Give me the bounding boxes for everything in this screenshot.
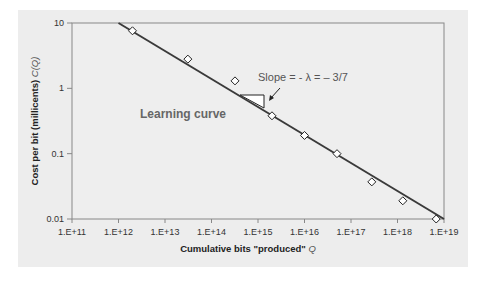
x-tick-label: 1.E+18 (383, 227, 412, 237)
y-axis: 1010.10.01 (46, 18, 72, 224)
x-tick-label: 1.E+17 (337, 227, 366, 237)
y-tick-label: 1 (59, 83, 64, 93)
x-tick-label: 1.E+15 (244, 227, 273, 237)
learning-curve-label: Learning curve (140, 107, 226, 121)
x-tick-label: 1.E+12 (104, 227, 133, 237)
learning-curve-chart: 1010.10.01 1.E+111.E+121.E+131.E+141.E+1… (0, 0, 491, 281)
x-tick-label: 1.E+16 (290, 227, 319, 237)
y-tick-label: 0.1 (51, 149, 64, 159)
x-tick-label: 1.E+14 (197, 227, 226, 237)
x-axis-title: Cumulative bits "produced" Q (180, 243, 316, 254)
y-tick-label: 0.01 (46, 214, 64, 224)
x-axis: 1.E+111.E+121.E+131.E+141.E+151.E+161.E+… (58, 219, 458, 237)
y-axis-title: Cost per bit (millicents) C(Q) (29, 57, 40, 186)
y-tick-label: 10 (54, 18, 64, 28)
x-tick-label: 1.E+13 (151, 227, 180, 237)
x-tick-label: 1.E+11 (58, 227, 86, 237)
x-tick-label: 1.E+19 (430, 227, 459, 237)
plot-area (72, 23, 444, 219)
plot-frame (72, 23, 444, 219)
slope-annotation: Slope = - λ = – 3/7 (258, 71, 348, 83)
